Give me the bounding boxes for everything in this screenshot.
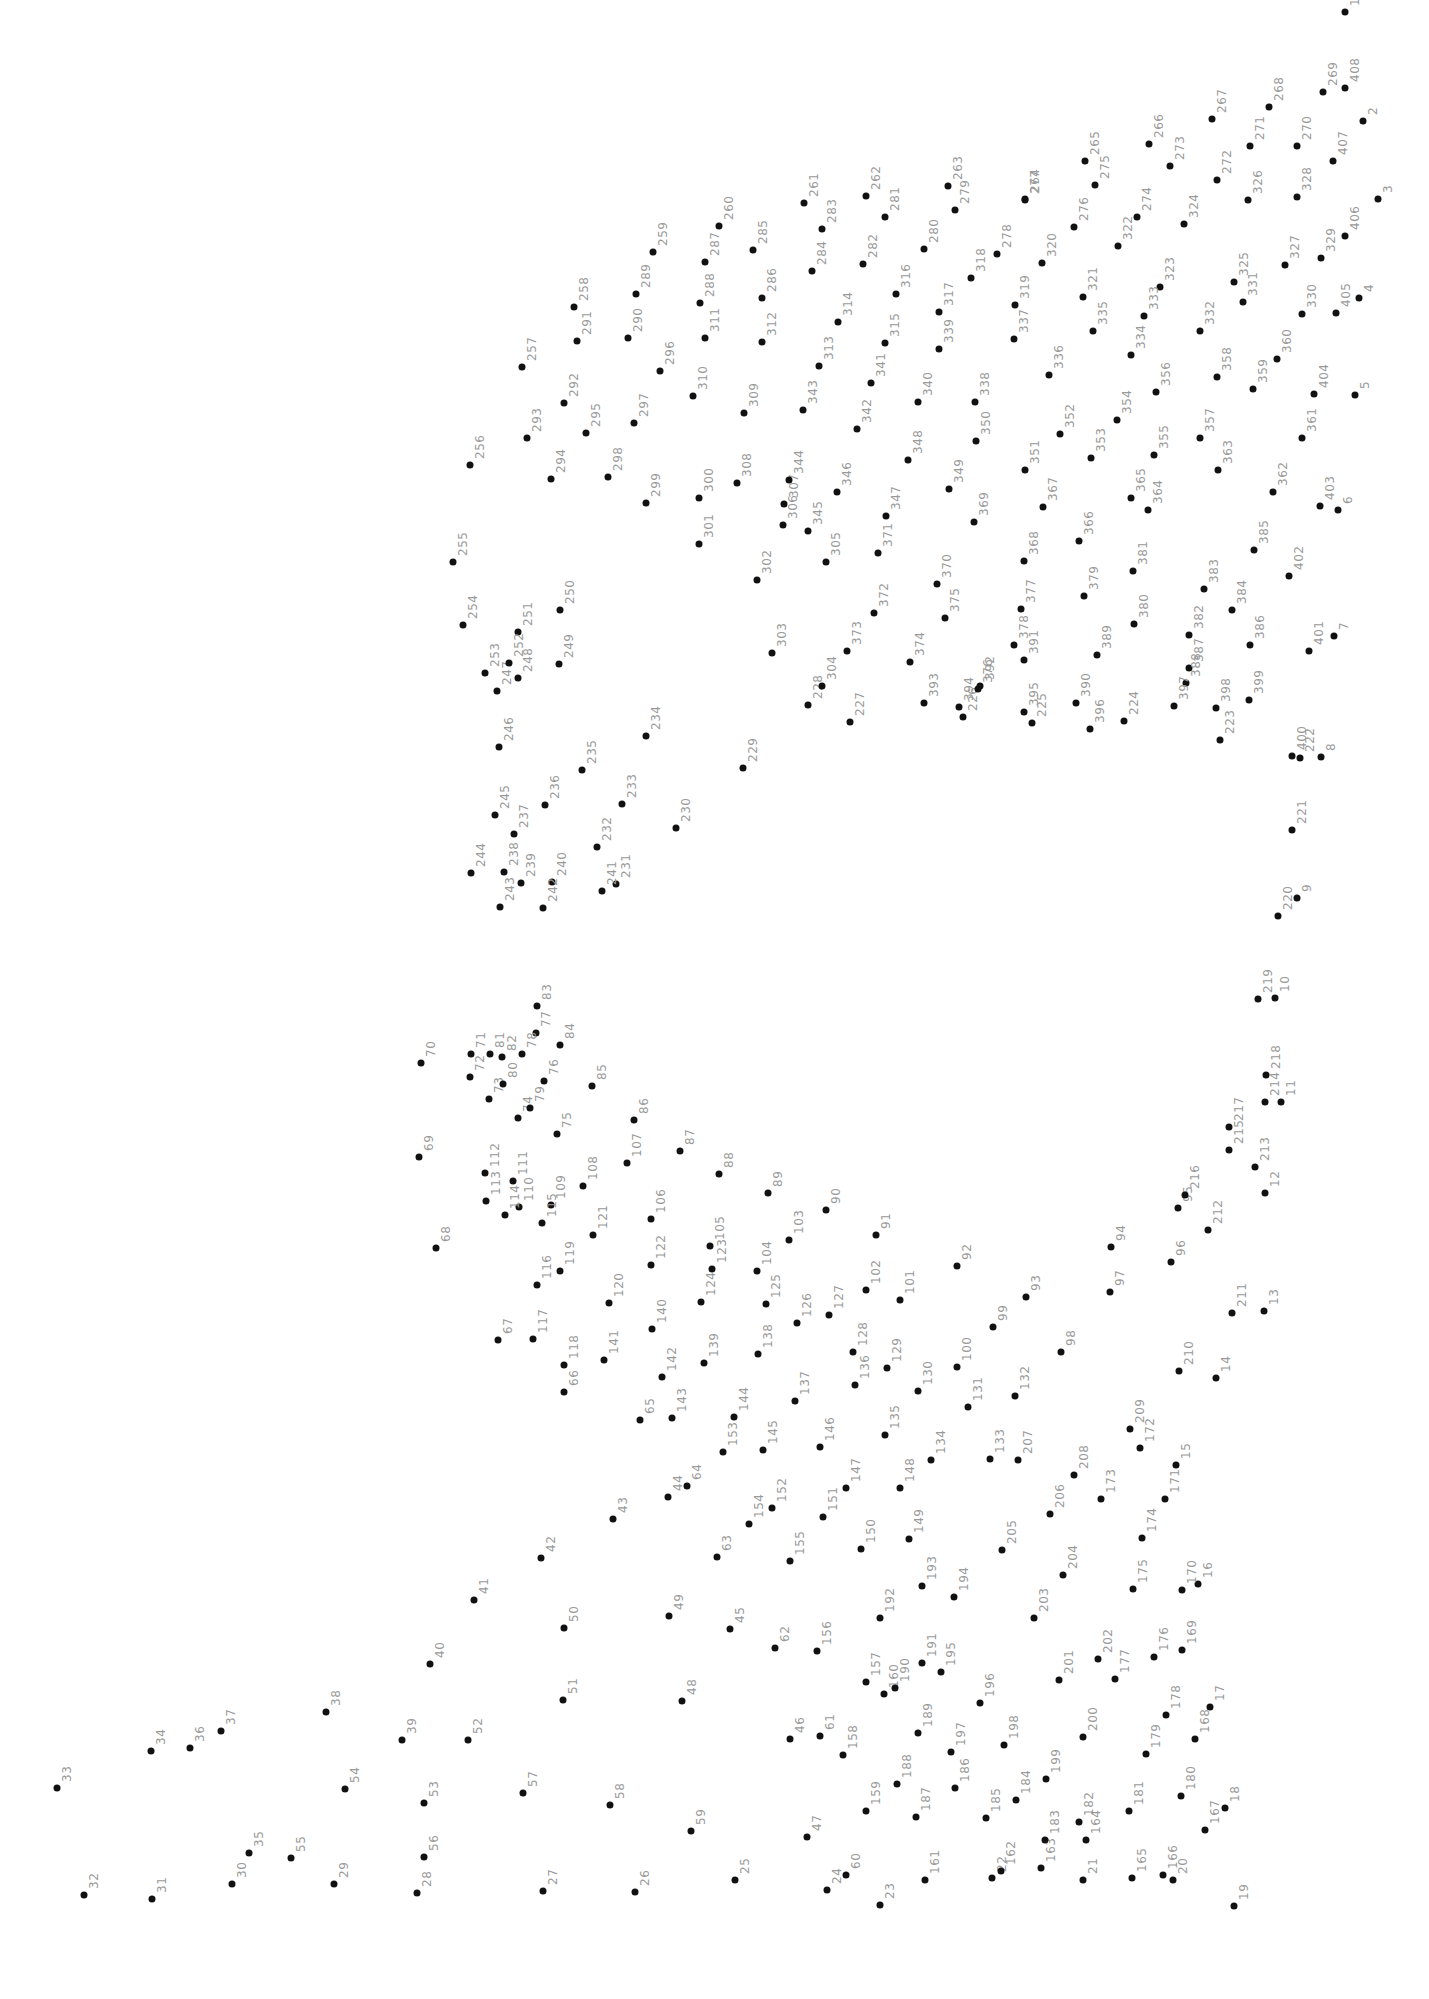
dot-number-label: 66 <box>568 1370 580 1386</box>
puzzle-dot <box>149 1896 156 1903</box>
dot-number-label: 105 <box>714 1216 726 1240</box>
puzzle-dot <box>148 1748 155 1755</box>
dot-number-label: 236 <box>549 775 561 799</box>
dot-number-label: 341 <box>875 353 887 377</box>
puzzle-dot <box>696 541 703 548</box>
puzzle-dot <box>1320 89 1327 96</box>
dot-number-label: 278 <box>1001 224 1013 248</box>
puzzle-dot <box>843 1485 850 1492</box>
dot-number-label: 359 <box>1257 359 1269 383</box>
puzzle-dot <box>1215 467 1222 474</box>
dot-number-label: 319 <box>1019 275 1031 299</box>
dot-number-label: 111 <box>517 1151 529 1175</box>
dot-number-label: 138 <box>762 1324 774 1348</box>
puzzle-dot <box>414 1890 421 1897</box>
dot-number-label: 261 <box>808 173 820 197</box>
puzzle-dot <box>1083 1837 1090 1844</box>
dot-number-label: 299 <box>650 473 662 497</box>
puzzle-dot <box>1231 1903 1238 1910</box>
dot-number-label: 227 <box>854 692 866 716</box>
dot-number-label: 92 <box>961 1244 973 1260</box>
puzzle-dot <box>1182 1192 1189 1199</box>
dot-number-label: 241 <box>606 861 618 885</box>
dot-number-label: 29 <box>338 1862 350 1878</box>
puzzle-dot <box>557 1042 564 1049</box>
dot-number-label: 384 <box>1236 580 1248 604</box>
dot-number-label: 152 <box>776 1478 788 1502</box>
puzzle-dot <box>698 1299 705 1306</box>
dot-number-label: 223 <box>1224 710 1236 734</box>
dot-number-label: 91 <box>880 1213 892 1229</box>
dot-number-label: 48 <box>686 1679 698 1695</box>
dot-number-label: 268 <box>1273 77 1285 101</box>
puzzle-dot <box>1080 1877 1087 1884</box>
puzzle-dot <box>590 1232 597 1239</box>
dot-number-label: 93 <box>1030 1275 1042 1291</box>
dot-number-label: 254 <box>467 595 479 619</box>
dot-number-label: 303 <box>776 623 788 647</box>
dot-number-label: 98 <box>1065 1330 1077 1346</box>
puzzle-dot <box>539 1220 546 1227</box>
puzzle-dot <box>619 801 626 808</box>
puzzle-dot <box>780 522 787 529</box>
puzzle-dot <box>794 1320 801 1327</box>
puzzle-dot <box>601 1357 608 1364</box>
dot-number-label: 168 <box>1199 1709 1211 1733</box>
puzzle-dot <box>571 304 578 311</box>
dot-number-label: 392 <box>984 656 996 680</box>
dot-number-label: 209 <box>1134 1399 1146 1423</box>
puzzle-dot <box>506 660 513 667</box>
puzzle-dot <box>1272 995 1279 1002</box>
dot-number-label: 360 <box>1281 329 1293 353</box>
dot-number-label: 35 <box>253 1831 265 1847</box>
puzzle-dot <box>1222 1805 1229 1812</box>
puzzle-dot <box>1209 116 1216 123</box>
dot-number-label: 265 <box>1089 131 1101 155</box>
dot-number-label: 318 <box>975 248 987 272</box>
dot-number-label: 195 <box>945 1642 957 1666</box>
dot-number-label: 9 <box>1301 884 1313 892</box>
dot-number-label: 65 <box>644 1398 656 1414</box>
puzzle-dot <box>679 1698 686 1705</box>
puzzle-dot <box>1043 1776 1050 1783</box>
dot-number-label: 354 <box>1121 390 1133 414</box>
dot-number-label: 2 <box>1367 107 1379 115</box>
dot-number-label: 56 <box>428 1835 440 1851</box>
puzzle-dot <box>805 702 812 709</box>
dot-number-label: 324 <box>1188 194 1200 218</box>
dot-number-label: 304 <box>826 656 838 680</box>
dot-number-label: 114 <box>509 1185 521 1209</box>
puzzle-dot <box>1163 1712 1170 1719</box>
dot-number-label: 186 <box>959 1758 971 1782</box>
dot-number-label: 401 <box>1313 621 1325 645</box>
puzzle-dot <box>702 259 709 266</box>
puzzle-dot <box>1274 356 1281 363</box>
puzzle-dot <box>1294 143 1301 150</box>
puzzle-dot <box>1226 1147 1233 1154</box>
puzzle-dot <box>1289 753 1296 760</box>
puzzle-dot <box>530 1336 537 1343</box>
puzzle-dot <box>999 1547 1006 1554</box>
dot-number-label: 196 <box>984 1673 996 1697</box>
puzzle-dot <box>852 1382 859 1389</box>
dot-number-label: 189 <box>922 1703 934 1727</box>
puzzle-dot <box>561 1625 568 1632</box>
dot-number-label: 100 <box>961 1337 973 1361</box>
dot-number-label: 353 <box>1095 428 1107 452</box>
puzzle-dot <box>1213 1375 1220 1382</box>
puzzle-dot <box>541 1078 548 1085</box>
dot-number-label: 32 <box>88 1873 100 1889</box>
dot-number-label: 106 <box>655 1189 667 1213</box>
puzzle-dot <box>1286 573 1293 580</box>
puzzle-dot <box>1153 389 1160 396</box>
dot-number-label: 323 <box>1164 257 1176 281</box>
dot-number-label: 316 <box>900 264 912 288</box>
dot-number-label: 118 <box>568 1335 580 1359</box>
puzzle-dot <box>1311 391 1318 398</box>
puzzle-dot <box>1088 455 1095 462</box>
dot-number-label: 312 <box>766 312 778 336</box>
dot-number-label: 334 <box>1135 325 1147 349</box>
dot-number-label: 11 <box>1285 1080 1297 1096</box>
puzzle-dot <box>787 1558 794 1565</box>
puzzle-dot <box>786 477 793 484</box>
